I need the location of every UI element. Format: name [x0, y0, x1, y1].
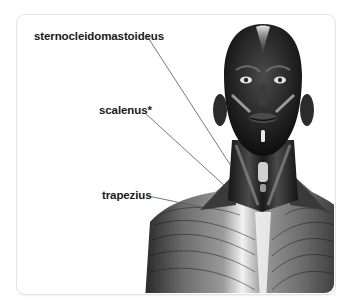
label-scalenus: scalenus*: [99, 104, 152, 116]
label-trapezius: trapezius: [102, 189, 152, 201]
ear-right: [300, 94, 314, 126]
label-sternocleidomastoideus: sternocleidomastoideus: [34, 30, 164, 42]
muscle-anatomy-illustration: [0, 0, 353, 302]
ear-left: [213, 94, 227, 126]
